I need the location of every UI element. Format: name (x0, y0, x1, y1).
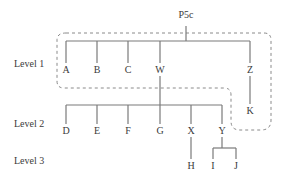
node-label-x: X (181, 125, 201, 136)
node-label-g: G (150, 125, 170, 136)
node-label-y: Y (212, 125, 232, 136)
node-label-b: B (87, 64, 107, 75)
diagram-canvas: P5c Level 1 Level 2 Level 3 A B C W Z K … (0, 0, 284, 177)
node-label-i: I (203, 160, 223, 171)
node-label-h: H (181, 160, 201, 171)
level1-boundary-dashed (57, 33, 271, 130)
node-label-z: Z (240, 64, 260, 75)
node-label-k: K (240, 105, 260, 116)
level-label-3: Level 3 (14, 155, 44, 166)
node-label-j: J (226, 160, 246, 171)
node-label-f: F (118, 125, 138, 136)
node-label-c: C (118, 64, 138, 75)
node-label-w: W (150, 64, 170, 75)
node-label-e: E (87, 125, 107, 136)
node-label-d: D (56, 125, 76, 136)
node-label-root: P5c (166, 9, 206, 20)
level-label-2: Level 2 (14, 118, 44, 129)
node-label-a: A (56, 64, 76, 75)
tree-graphic (0, 0, 284, 177)
level-label-1: Level 1 (14, 58, 44, 69)
